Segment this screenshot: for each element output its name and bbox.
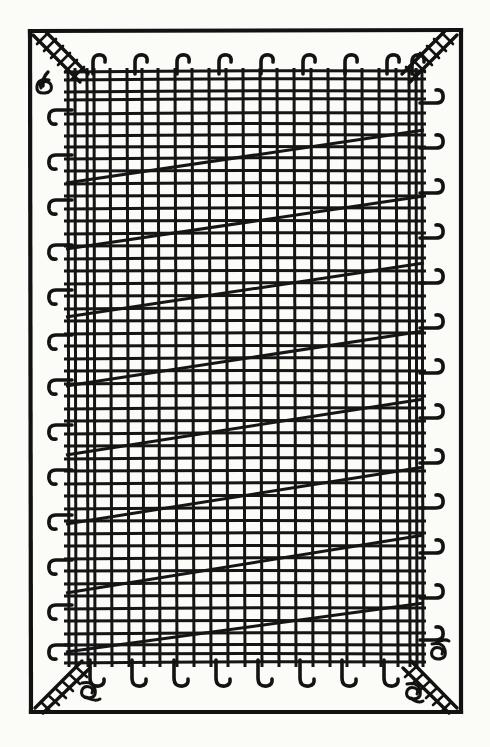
weft-thread — [64, 558, 426, 559]
weft-thread — [64, 396, 426, 397]
loom-frame-illustration — [0, 0, 490, 747]
weft-thread — [64, 283, 426, 284]
weft-thread — [64, 258, 426, 259]
weft-thread — [64, 371, 426, 372]
weft-thread — [64, 79, 426, 80]
weft-thread — [64, 91, 426, 92]
weft-thread — [64, 596, 426, 597]
weft-thread — [64, 508, 426, 509]
weft-thread — [64, 147, 426, 148]
weft-thread — [64, 221, 426, 222]
weft-thread — [64, 621, 426, 622]
weft-thread — [64, 135, 426, 136]
weft-thread — [64, 113, 426, 114]
frame-top-rail — [30, 30, 461, 31]
weft-thread — [64, 546, 426, 547]
weft-thread — [64, 433, 426, 434]
weft-thread — [64, 521, 426, 522]
weft-thread — [64, 71, 426, 72]
weft-thread — [64, 208, 426, 209]
weft-thread — [64, 633, 426, 634]
weft-thread — [64, 533, 426, 534]
weft-thread — [64, 233, 426, 234]
weft-thread — [64, 196, 426, 197]
weft-thread — [64, 654, 426, 655]
weft-thread — [64, 246, 426, 247]
weft-thread — [64, 99, 426, 100]
weft-thread — [64, 471, 426, 472]
weft-thread — [64, 383, 426, 384]
weft-thread — [64, 171, 426, 172]
weft-thread — [64, 346, 426, 347]
figure-root: Rectangular warped weaving frame loom-fr… — [0, 0, 490, 747]
weft-thread — [64, 296, 426, 297]
weft-thread — [64, 571, 426, 572]
weft-thread — [64, 421, 426, 422]
weft-thread — [64, 183, 426, 184]
weft-thread — [64, 662, 426, 663]
frame-left-rail — [30, 31, 31, 712]
weft-thread — [64, 124, 426, 125]
weft-thread — [64, 483, 426, 484]
weft-thread — [64, 458, 426, 459]
weft-thread — [64, 333, 426, 334]
weft-thread — [64, 321, 426, 322]
